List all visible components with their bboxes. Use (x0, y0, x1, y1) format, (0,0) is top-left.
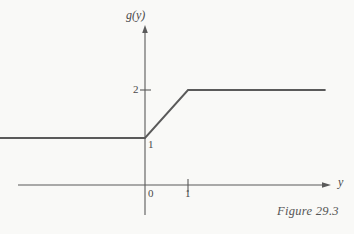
y-tick-label-2: 2 (133, 84, 139, 95)
x-tick-label-1: 1 (185, 188, 191, 199)
function-curve (0, 90, 326, 138)
x-axis (18, 182, 331, 188)
x-axis-label: y (338, 176, 343, 188)
plot-canvas (0, 0, 354, 234)
x-tick-label-0: 0 (148, 188, 154, 199)
y-tick-label-1: 1 (148, 139, 154, 150)
y-axis-label: g(y) (126, 9, 145, 21)
figure-container: g(y) y 2 1 0 1 Figure 29.3 (0, 0, 354, 234)
y-axis (142, 25, 148, 215)
x-axis-arrowhead (322, 182, 331, 188)
figure-caption: Figure 29.3 (277, 205, 339, 218)
y-axis-arrowhead (142, 25, 148, 33)
